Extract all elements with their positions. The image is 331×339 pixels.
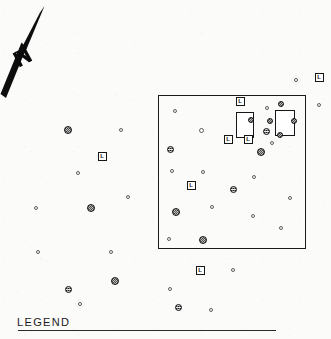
minor-feature-marker [251,214,255,218]
minor-feature-marker [167,237,171,241]
minor-feature-marker [201,170,205,174]
minor-feature-marker [294,78,298,82]
major-feature-marker [248,117,254,123]
major-feature-marker [277,132,283,138]
major-feature-marker [267,118,273,124]
minor-feature-marker [170,169,174,173]
station-letter: L [189,182,193,188]
station-letter: L [198,267,202,273]
major-feature-marker [263,128,270,135]
station-letter: L [238,98,242,104]
minor-feature-marker [288,196,292,200]
minor-feature-marker [265,106,269,110]
major-feature-marker [167,146,174,153]
lettered-station-square: L [224,135,233,144]
legend: LEGEND [17,316,317,336]
minor-feature-marker [199,128,204,133]
minor-feature-marker [78,302,82,306]
major-feature-marker [175,304,182,311]
minor-feature-marker [270,141,274,145]
major-feature-marker [278,101,284,107]
minor-feature-marker [126,195,130,199]
station-letter: L [100,153,104,159]
lettered-station-square: L [236,97,245,106]
lettered-station-square: L [196,266,205,275]
minor-feature-marker [279,226,283,230]
station-letter: L [317,74,321,80]
major-feature-marker [257,148,265,156]
minor-feature-marker [210,205,214,209]
major-feature-marker [172,208,180,216]
minor-feature-marker [252,175,256,179]
minor-feature-marker [34,206,38,210]
legend-rule [18,330,276,331]
north-arrow [0,2,62,106]
major-feature-marker [291,118,297,124]
minor-feature-marker [119,128,123,132]
lettered-station-square: L [244,135,253,144]
lettered-station-square: L [187,181,196,190]
minor-feature-marker [36,250,40,254]
legend-title: LEGEND [17,316,70,328]
major-feature-marker [65,286,72,293]
minor-feature-marker [209,308,213,312]
minor-feature-marker [231,268,235,272]
site-plan-map: LLLLLLL LEGEND [0,0,331,339]
minor-feature-marker [173,109,177,113]
station-letter: L [226,136,230,142]
major-feature-marker [230,186,237,193]
minor-feature-marker [109,250,113,254]
major-feature-marker [87,204,95,212]
minor-feature-marker [317,103,321,107]
major-feature-marker [199,236,207,244]
station-letter: L [246,136,250,142]
minor-feature-marker [76,171,80,175]
lettered-station-square: L [315,73,324,82]
major-feature-marker [64,126,72,134]
major-feature-marker [111,277,119,285]
lettered-station-square: L [98,152,107,161]
minor-feature-marker [168,287,172,291]
